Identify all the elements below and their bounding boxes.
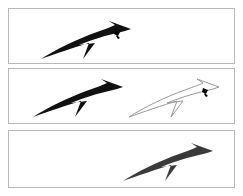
arrow-outline-right-icon	[127, 77, 223, 119]
top-panel	[8, 8, 235, 64]
middle-panel	[8, 68, 235, 124]
arrow-solid-left-icon	[31, 77, 127, 119]
arrow-solid-left-icon	[39, 19, 135, 61]
image-canvas	[0, 0, 243, 196]
bottom-panel	[8, 130, 235, 188]
arrow-soft-right-icon	[121, 141, 217, 183]
